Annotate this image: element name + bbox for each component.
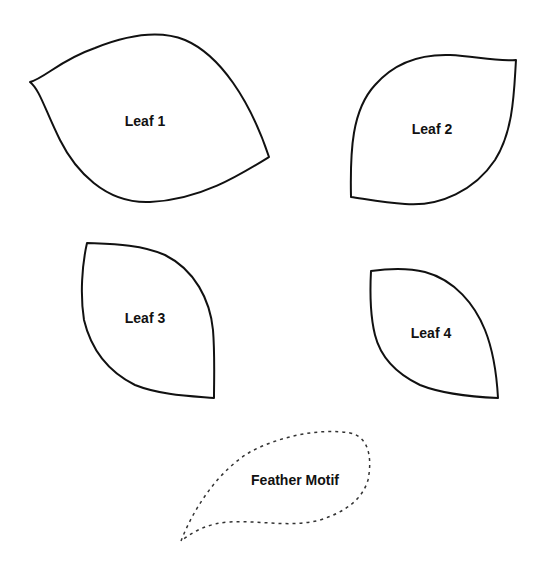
leaf-2-label: Leaf 2 xyxy=(412,121,453,137)
leaf-3-label: Leaf 3 xyxy=(125,310,166,326)
leaf-4: Leaf 4 xyxy=(370,269,498,398)
leaf-3: Leaf 3 xyxy=(82,243,214,398)
feather-motif-label: Feather Motif xyxy=(251,472,339,488)
leaf-4-label: Leaf 4 xyxy=(411,325,452,341)
leaf-1-label: Leaf 1 xyxy=(125,113,166,129)
leaf-2: Leaf 2 xyxy=(351,55,516,204)
feather-motif: Feather Motif xyxy=(181,432,370,541)
pattern-sheet: Leaf 1 Leaf 2 Leaf 3 Leaf 4 Feather Moti… xyxy=(0,0,538,572)
leaf-1: Leaf 1 xyxy=(30,34,269,202)
